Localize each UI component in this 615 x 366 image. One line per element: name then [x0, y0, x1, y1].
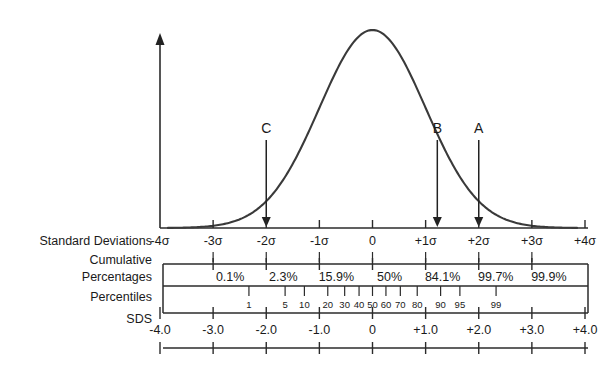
sd-axis-tick-labels: -4σ-3σ-2σ-1σ0+1σ+2σ+3σ+4σ — [151, 234, 597, 248]
row-label-percentiles: Percentiles — [90, 290, 152, 304]
percentile-tick-labels: 151020304050607080909599 — [246, 299, 501, 310]
percentile-label: 20 — [322, 299, 333, 310]
sd-tick-label: +2σ — [468, 234, 490, 248]
pointer-label-b: B — [433, 120, 442, 136]
pointer-a: A — [474, 120, 484, 227]
row-label-standard-deviations: Standard Deviations — [39, 234, 152, 248]
sd-axis-ticks — [213, 220, 585, 228]
percentile-label: 1 — [246, 299, 251, 310]
percentile-label: 40 — [354, 299, 365, 310]
normal-curve — [168, 30, 577, 228]
sds-tick-label: 0 — [369, 323, 376, 337]
cumulative-percentage-label: 2.3% — [269, 270, 298, 284]
cumulative-percentage-labels: 0.1%2.3%15.9%50%84.1%99.7%99.9% — [216, 270, 567, 284]
row-label-cumulative-line1: Cumulative — [89, 253, 152, 267]
sd-tick-label: -2σ — [257, 234, 276, 248]
sd-tick-label: +1σ — [415, 234, 437, 248]
pointer-group: ABC — [261, 120, 484, 227]
percentile-label: 90 — [435, 299, 446, 310]
sds-tick-label: +3.0 — [520, 323, 545, 337]
sd-tick-label: +4σ — [574, 234, 596, 248]
sds-tick-label: -3.0 — [202, 323, 224, 337]
percentile-label: 80 — [412, 299, 423, 310]
cumulative-percentage-label: 99.9% — [531, 270, 566, 284]
percentile-label: 99 — [491, 299, 502, 310]
cumulative-percentage-label: 50% — [377, 270, 402, 284]
cumulative-percentage-label: 0.1% — [216, 270, 245, 284]
percentile-ticks — [249, 286, 496, 296]
percentile-label: 30 — [339, 299, 350, 310]
sds-tick-label: -4.0 — [149, 323, 171, 337]
sds-tick-label: -1.0 — [309, 323, 331, 337]
percentile-label: 95 — [455, 299, 466, 310]
percentile-label: 60 — [381, 299, 392, 310]
normal-distribution-figure: ABC -4σ-3σ-2σ-1σ0+1σ+2σ+3σ+4σ 0.1%2.3%15… — [0, 0, 615, 366]
sd-tick-label: -4σ — [151, 234, 170, 248]
pointer-c: C — [261, 120, 271, 227]
sd-tick-label: 0 — [369, 234, 376, 248]
percentile-label: 70 — [395, 299, 406, 310]
row-label-sds: SDS — [126, 312, 152, 326]
cumulative-percentage-label: 99.7% — [478, 270, 513, 284]
sd-tick-label: -1σ — [310, 234, 329, 248]
cumulative-percentage-label: 15.9% — [319, 270, 354, 284]
percentile-label: 5 — [282, 299, 287, 310]
sds-tick-label: +1.0 — [413, 323, 438, 337]
sds-tick-label: -2.0 — [255, 323, 277, 337]
row-label-cumulative-line2: Percentages — [82, 270, 152, 284]
percentile-label: 10 — [299, 299, 310, 310]
cumulative-percentage-label: 84.1% — [425, 270, 460, 284]
pointer-label-a: A — [474, 120, 484, 136]
sds-tick-label: +2.0 — [466, 323, 491, 337]
pointer-label-c: C — [261, 120, 271, 136]
figure-canvas: ABC -4σ-3σ-2σ-1σ0+1σ+2σ+3σ+4σ 0.1%2.3%15… — [0, 0, 615, 366]
y-axis — [156, 33, 165, 228]
sd-tick-label: +3σ — [521, 234, 543, 248]
sds-scale-labels: -4.0-3.0-2.0-1.00+1.0+2.0+3.0+4.0 — [149, 323, 597, 337]
sds-tick-label: +4.0 — [573, 323, 598, 337]
sd-tick-label: -3σ — [204, 234, 223, 248]
